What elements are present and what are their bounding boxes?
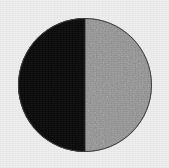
pie-chart-figure: Slice 1 50% Slice 2 50% xyxy=(0,0,169,168)
pie-chart-svg xyxy=(0,0,169,168)
